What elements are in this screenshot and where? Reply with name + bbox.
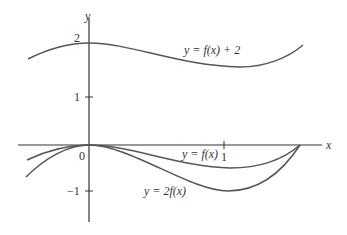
y-axis-label: y xyxy=(85,10,90,22)
label-2f: y = 2f(x) xyxy=(144,185,186,197)
graph-canvas xyxy=(0,0,347,235)
x-tick-label-1: 1 xyxy=(221,151,227,163)
x-axis-label: x xyxy=(326,139,331,151)
y-tick-label-1: 1 xyxy=(74,91,80,103)
function-transformation-diagram: y x 2 1 0 −1 1 y = f(x) + 2 y = f(x) y =… xyxy=(0,0,347,235)
y-tick-label-2: 2 xyxy=(74,32,80,44)
label-f: y = f(x) xyxy=(182,148,218,160)
curve-f-plus-2 xyxy=(28,43,303,67)
y-tick-label-minus1: −1 xyxy=(67,185,80,197)
origin-label: 0 xyxy=(79,150,85,162)
label-f-plus-2: y = f(x) + 2 xyxy=(184,44,240,56)
